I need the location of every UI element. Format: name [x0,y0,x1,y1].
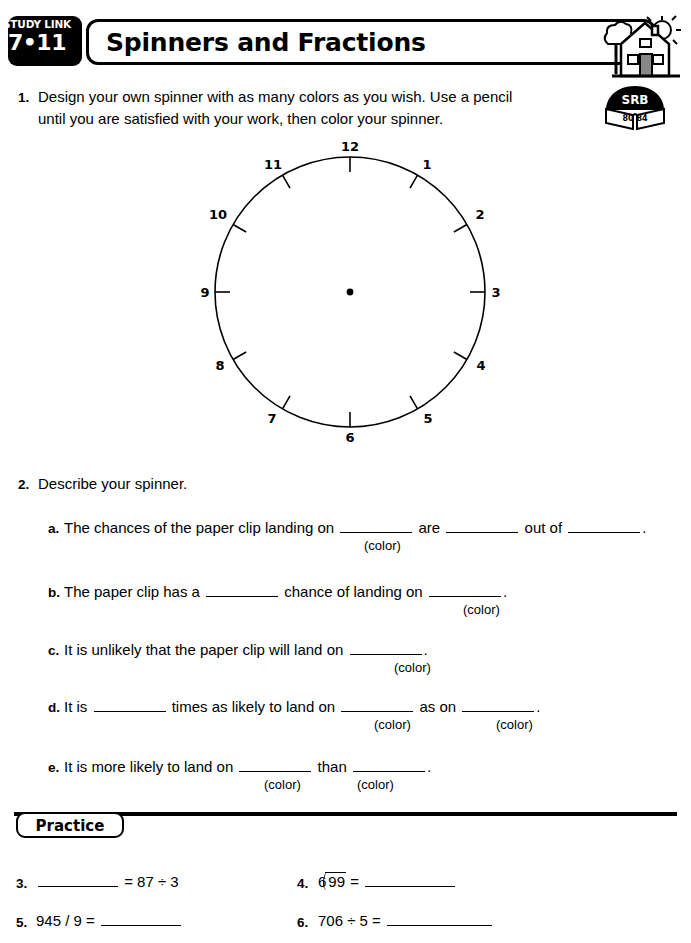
srb-label: SRB [621,93,648,107]
problem-2-number: 2. [18,477,29,492]
part-b-blank-1[interactable] [206,582,278,597]
problem-3-number: 3. [16,876,27,891]
part-c-letter: c. [48,643,59,658]
part-d-blank-2[interactable] [341,697,413,712]
clock-number-9: 9 [200,285,209,300]
part-d-text-2: times as likely to land on [172,698,335,715]
part-d-text-1: It is [64,698,87,715]
srb-pages: 80 84 [622,114,647,123]
clock-number-10: 10 [209,207,227,222]
part-d-text-4: . [536,698,540,715]
part-b-color-label: (color) [463,602,500,617]
study-link-label: STUDY LINK [0,18,74,30]
part-a-text-3: out of [525,519,563,536]
part-b-text-1: The paper clip has a [64,583,200,600]
part-b-text-2: chance of landing on [284,583,422,600]
clock-number-12: 12 [341,140,359,154]
long-division-notation: 699 [318,872,346,890]
part-a-color-label: (color) [364,538,401,553]
part-b-text-3: . [503,583,507,600]
part-e-text-1: It is more likely to land on [64,758,233,775]
part-d-color-label-2: (color) [496,717,533,732]
clock-number-7: 7 [267,411,276,426]
part-c-color-label: (color) [394,660,431,675]
part-e-letter: e. [48,760,59,775]
clock-center-dot [347,289,354,296]
part-b-letter: b. [48,585,60,600]
part-d-letter: d. [48,700,60,715]
problem-2-prompt: Describe your spinner. [38,475,187,492]
part-d-text: It is times as likely to land on as on . [64,697,541,715]
part-d-color-label-1: (color) [374,717,411,732]
problem-5-blank[interactable] [101,911,181,926]
house-with-sun-icon [592,14,688,84]
study-link-number: 7•11 [0,30,74,55]
problem-4-number: 4. [297,876,308,891]
part-e-text: It is more likely to land on than . [64,757,431,775]
worksheet-header: STUDY LINK 7•11 Spinners and Fractions [0,14,691,76]
clock-number-1: 1 [422,157,431,172]
problem-6-expression: 706 ÷ 5 = [318,912,381,929]
problem-5-text: 945 / 9 = [36,911,183,929]
part-a-blank-1[interactable] [340,518,412,533]
part-e-text-3: . [427,758,431,775]
part-a-text-4: . [642,519,646,536]
part-a-text-2: are [419,519,441,536]
part-a-blank-2[interactable] [446,518,518,533]
part-d-blank-1[interactable] [94,697,166,712]
problem-6-text: 706 ÷ 5 = [318,911,494,929]
part-d-text-3: as on [419,698,456,715]
part-e-color-label-1: (color) [264,777,301,792]
clock-number-5: 5 [423,411,432,426]
clock-number-6: 6 [345,430,354,445]
clock-number-2: 2 [475,207,484,222]
problem-1-line-2: until you are satisfied with your work, … [38,110,443,127]
part-b-text: The paper clip has a chance of landing o… [64,582,507,600]
problem-6-blank[interactable] [387,911,492,926]
problem-4-blank[interactable] [365,872,455,887]
part-e-text-2: than [318,758,347,775]
part-d-blank-3[interactable] [462,697,534,712]
problem-4-equals: = [350,873,359,890]
clock-number-4: 4 [476,358,485,373]
part-c-text-2: . [424,641,428,658]
problem-3-expression: = 87 ÷ 3 [124,873,179,890]
problem-5-expression: 945 / 9 = [36,912,95,929]
problem-1-number: 1. [18,90,29,105]
problem-5-number: 5. [16,915,27,930]
part-e-blank-1[interactable] [239,757,311,772]
part-e-color-label-2: (color) [357,777,394,792]
problem-3-blank[interactable] [38,872,118,887]
clock-svg: 12 1 2 3 4 5 6 7 8 9 10 11 [200,140,500,450]
problem-4-dividend: 99 [325,872,346,890]
problem-4-text: 699 = [318,872,457,890]
spinner-clock-face[interactable]: 12 1 2 3 4 5 6 7 8 9 10 11 [200,140,500,450]
part-a-text: The chances of the paper clip landing on… [64,518,646,536]
part-c-text-1: It is unlikely that the paper clip will … [64,641,343,658]
srb-book-icon: SRB 80 84 [600,84,670,132]
part-c-text: It is unlikely that the paper clip will … [64,640,428,658]
part-b-blank-2[interactable] [429,582,501,597]
page-title: Spinners and Fractions [106,28,426,57]
part-a-text-1: The chances of the paper clip landing on [64,519,334,536]
part-a-letter: a. [48,521,59,536]
problem-3-text: = 87 ÷ 3 [36,872,179,890]
clock-number-3: 3 [491,285,500,300]
problem-6-number: 6. [297,915,308,930]
part-c-blank-1[interactable] [350,640,422,655]
practice-heading: Practice [16,817,124,835]
part-e-blank-2[interactable] [353,757,425,772]
clock-number-8: 8 [215,358,224,373]
clock-number-11: 11 [264,157,282,172]
problem-1-line-1: Design your own spinner with as many col… [38,88,512,105]
part-a-blank-3[interactable] [568,518,640,533]
